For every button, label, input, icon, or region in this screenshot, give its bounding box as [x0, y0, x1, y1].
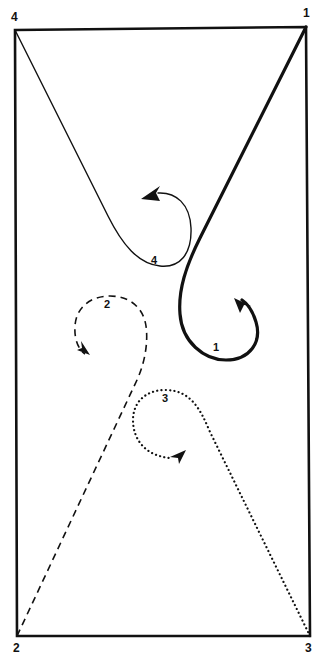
path-3-line — [133, 390, 310, 636]
path-1-line — [180, 27, 306, 360]
corner-label-4: 4 — [11, 11, 18, 23]
path-label-4: 4 — [151, 255, 157, 266]
corner-label-2: 2 — [13, 642, 20, 654]
path-2-line — [17, 296, 147, 636]
movement-diagram — [0, 0, 322, 661]
corner-label-1: 1 — [303, 7, 310, 19]
path-1 — [180, 27, 306, 360]
arrowhead-4-icon — [141, 186, 160, 201]
path-4-line — [15, 30, 191, 266]
path-label-2: 2 — [104, 299, 110, 310]
path-3 — [133, 390, 310, 636]
path-label-1: 1 — [213, 342, 219, 353]
path-label-3: 3 — [162, 393, 168, 404]
arrowhead-3-icon — [170, 450, 186, 464]
corner-label-3: 3 — [305, 642, 312, 654]
path-4 — [15, 30, 191, 266]
path-2 — [17, 296, 147, 636]
